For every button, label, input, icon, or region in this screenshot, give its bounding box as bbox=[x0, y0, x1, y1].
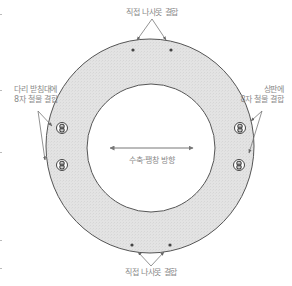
figure8-fastener-icon bbox=[235, 123, 246, 134]
label-bottom-direct-screw: 직접 나사못 결합 bbox=[101, 268, 201, 278]
label-top-direct-screw: 직접 나사못 결합 bbox=[102, 8, 202, 18]
screw-dot bbox=[168, 243, 171, 246]
edge-mark bbox=[0, 268, 2, 269]
edge-mark bbox=[0, 240, 2, 241]
leader-lines-bottom bbox=[138, 252, 164, 266]
screw-dot bbox=[130, 243, 133, 246]
label-right-figure8-to-top: 상판에 8자 철물 결합 bbox=[222, 85, 284, 105]
screw-dot bbox=[169, 48, 172, 51]
label-right-line1: 상판에 bbox=[222, 85, 284, 95]
edge-mark bbox=[0, 14, 2, 15]
edge-mark bbox=[0, 152, 2, 153]
figure8-fastener-icon bbox=[234, 160, 245, 171]
label-left-figure8-to-leg: 다리 받침대에 8자 철물 결합 bbox=[14, 85, 74, 105]
label-center-expansion-direction: 수축·팽창 방향 bbox=[102, 156, 202, 166]
ring-shape bbox=[46, 39, 254, 253]
round-tabletop-ring bbox=[46, 39, 254, 253]
leader-lines-top bbox=[137, 19, 166, 40]
tabletop-fastening-diagram bbox=[0, 0, 292, 286]
figure8-fastener-icon bbox=[57, 160, 68, 171]
edge-mark bbox=[0, 90, 2, 91]
figure8-fastener-icon bbox=[57, 123, 68, 134]
label-left-line1: 다리 받침대에 bbox=[14, 85, 74, 95]
label-left-line2: 8자 철물 결합 bbox=[14, 95, 74, 105]
screw-dot bbox=[131, 48, 134, 51]
label-right-line2: 8자 철물 결합 bbox=[222, 95, 284, 105]
